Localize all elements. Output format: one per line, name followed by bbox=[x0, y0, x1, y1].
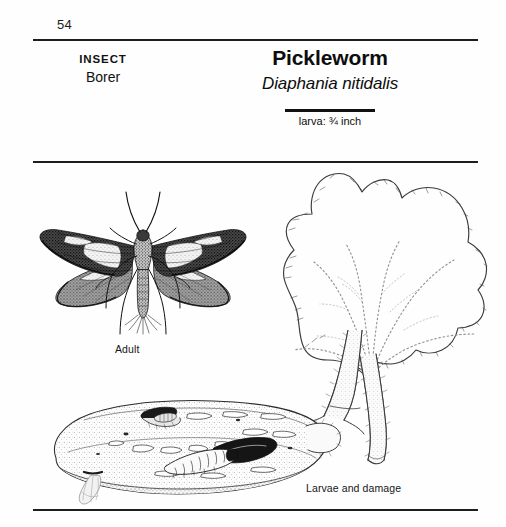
cucumber-with-larvae-illustration bbox=[38, 396, 348, 508]
adult-moth-illustration bbox=[28, 186, 258, 336]
title-block: Pickleworm Diaphania nitidalis larva: ¾ … bbox=[200, 46, 460, 129]
scale-bar bbox=[285, 109, 375, 112]
scientific-name: Diaphania nitidalis bbox=[200, 73, 460, 95]
scale-label: larva: ¾ inch bbox=[285, 115, 375, 128]
category-block: INSECT Borer bbox=[48, 52, 158, 87]
page-number: 54 bbox=[57, 17, 72, 32]
field-guide-page: 54 INSECT Borer Pickleworm Diaphania nit… bbox=[0, 0, 506, 527]
larvae-caption: Larvae and damage bbox=[306, 482, 401, 494]
common-name-heading: Pickleworm bbox=[200, 46, 460, 70]
category-name: Borer bbox=[48, 68, 158, 87]
header-rule-top bbox=[33, 39, 478, 41]
header-rule-bottom bbox=[33, 161, 478, 163]
footer-rule bbox=[33, 509, 478, 511]
category-kicker: INSECT bbox=[48, 52, 158, 67]
adult-caption: Adult bbox=[115, 343, 139, 355]
scale-indicator: larva: ¾ inch bbox=[285, 109, 375, 128]
